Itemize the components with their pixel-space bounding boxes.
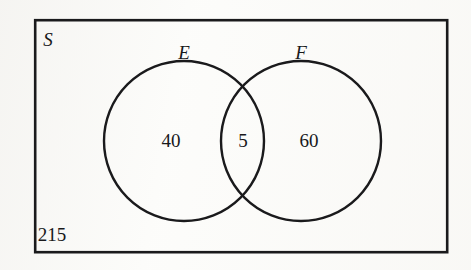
count-intersection: 5 [238, 131, 248, 150]
set-label-f: F [295, 43, 307, 62]
venn-diagram-graphic [0, 0, 471, 270]
universal-set-label: S [43, 30, 53, 49]
count-f-only: 60 [300, 131, 319, 150]
venn-diagram-figure: S E F 40 5 60 215 [0, 0, 471, 270]
count-e-only: 40 [162, 131, 181, 150]
set-label-e: E [178, 43, 190, 62]
count-outside: 215 [38, 225, 67, 244]
